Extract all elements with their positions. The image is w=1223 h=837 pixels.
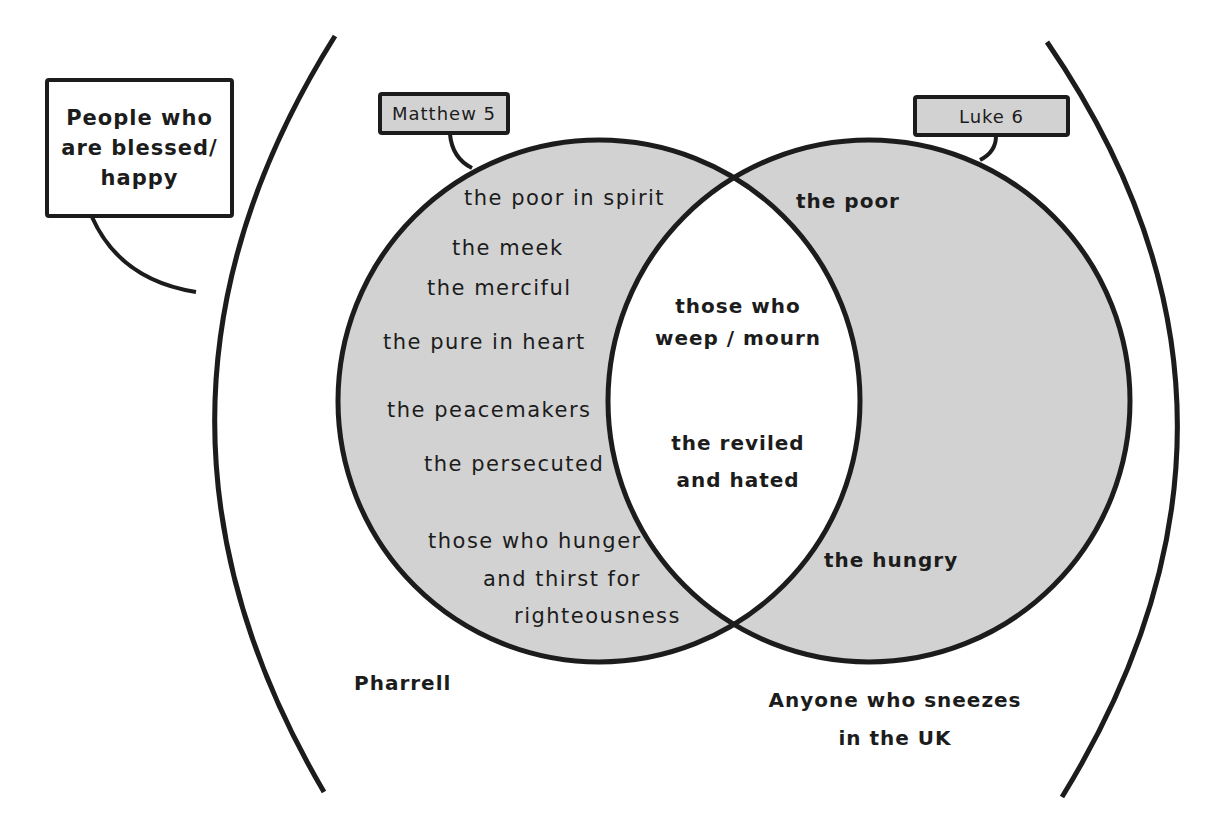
matthew-label-connector — [450, 134, 472, 168]
matthew-item: the pure in heart — [383, 332, 586, 353]
universe-label-line-2: are blessed/ — [61, 133, 218, 163]
outside-item-pharrell: Pharrell — [354, 673, 451, 693]
matthew-5-tag: Matthew 5 — [378, 92, 510, 135]
outside-item-sneezes: Anyone who sneezes — [750, 690, 1040, 710]
intersection-item: weep / mourn — [648, 328, 828, 348]
outside-item-sneezes-2: in the UK — [750, 728, 1040, 748]
luke-label-connector — [980, 136, 996, 160]
universe-label-box: People who are blessed/ happy — [45, 78, 234, 218]
matthew-item: the peacemakers — [387, 400, 591, 421]
matthew-item: righteousness — [514, 606, 681, 627]
intersection-item: and hated — [648, 470, 828, 490]
luke-6-tag: Luke 6 — [913, 95, 1070, 137]
luke-item: the poor — [796, 191, 900, 211]
matthew-item: the poor in spirit — [464, 188, 665, 209]
matthew-item: the merciful — [427, 278, 572, 299]
intersection-item: those who — [648, 296, 828, 316]
matthew-item: the persecuted — [424, 454, 604, 475]
matthew-item: the meek — [452, 238, 564, 259]
matthew-5-tag-label: Matthew 5 — [392, 103, 496, 124]
luke-item: the hungry — [824, 550, 958, 570]
universe-label-line-3: happy — [101, 163, 179, 193]
luke-6-tag-label: Luke 6 — [959, 106, 1024, 127]
matthew-item: and thirst for — [483, 569, 641, 590]
universe-label-line-1: People who — [66, 103, 213, 133]
universe-label-connector — [92, 217, 196, 292]
matthew-item: those who hunger — [428, 531, 642, 552]
intersection-item: the reviled — [648, 433, 828, 453]
